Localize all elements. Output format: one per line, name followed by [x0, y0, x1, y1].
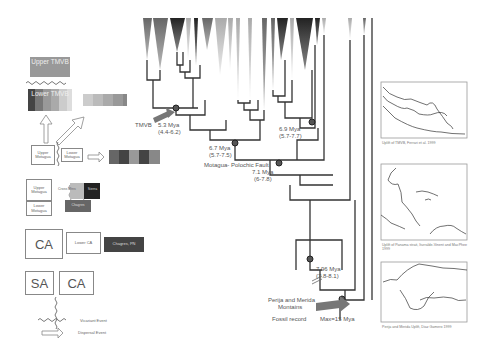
chagres-pn-label: Chagres, PN: [104, 242, 144, 246]
vicariant-wave: [26, 82, 66, 85]
ca-box: CA: [25, 229, 63, 259]
lower-ca-box: Lower CA: [66, 232, 101, 254]
fossil-record-label: Fossil record: [272, 316, 306, 323]
node3-ci: (5.7-7.7): [279, 133, 302, 140]
node5-ci: (7.8-8.1): [316, 273, 339, 280]
map-frame-panama: [381, 164, 467, 240]
map-caption-tmvb: Uplift of TMVB, Ferrari et al. 1999: [382, 141, 472, 145]
upper-motagua-label-2: Upper Motagua: [27, 186, 51, 195]
tmvb-label: TMVB: [135, 122, 152, 129]
node3-age: 6.9 Mya: [279, 126, 300, 133]
node1-age: 5.3 Mya: [158, 122, 179, 129]
upper-motagua-box-2: Upper Motagua: [26, 179, 52, 201]
lower-motagua-box-2: Lower Motagua: [26, 201, 52, 216]
sa-label: SA: [31, 276, 48, 291]
map-caption-panama: Uplift of Panama strait, Iturralde-Vinen…: [382, 243, 468, 252]
node2-age: 6.7 Mya: [209, 145, 230, 152]
ca-label-2: CA: [67, 276, 85, 291]
node4-title: Motagua- Polochic Fault: [204, 162, 269, 169]
node4-ci: (6-7.8): [254, 176, 272, 183]
perija-label: Perija and Merida: [268, 297, 315, 304]
chagres-small-label: Chagres: [65, 204, 91, 208]
lower-tmvb-label: Lower TMVB: [28, 90, 72, 97]
perija-label-2: Montains: [278, 304, 302, 311]
vicariant-event-label: Vicariant Event: [80, 319, 107, 323]
lower-motagua-box: Lower Motagua: [61, 148, 83, 162]
node2-ci: (5.7-7.5): [209, 152, 232, 159]
cross-mtns-label: Cross Mtns: [58, 188, 76, 192]
node1-ci: (4.4-6.2): [158, 129, 181, 136]
lower-motagua-label-2: Lower Motagua: [27, 204, 51, 213]
map-caption-perija: Perija and Merida Uplift, Diaz Gamero 19…: [382, 325, 468, 329]
phylogeny-tree: [0, 0, 489, 353]
upper-tmvb-label: Upper TMVB: [30, 58, 70, 65]
sierra-label: Sierra: [85, 188, 100, 192]
map-frame-perija: [381, 262, 467, 322]
node4-age: 7.1 Mya: [252, 169, 273, 176]
lower-motagua-label: Lower Motagua: [62, 151, 82, 160]
ca-box-2: CA: [59, 271, 94, 295]
sa-box: SA: [25, 271, 54, 295]
node5-age: 7.96 Mya: [316, 266, 341, 273]
upper-motagua-label: Upper Motagua: [32, 151, 54, 160]
lower-ca-label: Lower CA: [75, 241, 93, 245]
dispersal-event-label: Dispersal Event: [78, 331, 106, 335]
upper-motagua-box: Upper Motagua: [31, 145, 55, 165]
ca-label: CA: [35, 237, 53, 252]
max-age-label: Max=15 Mya: [320, 316, 355, 323]
